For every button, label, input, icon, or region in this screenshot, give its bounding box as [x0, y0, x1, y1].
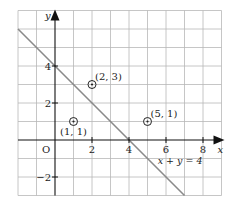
x-tick-label: 6: [163, 144, 169, 155]
y-tick-label: 2: [45, 98, 51, 109]
data-points: (1, 1)(2, 3)(5, 1): [60, 71, 177, 137]
point-dot-icon: [146, 120, 148, 122]
point-dot-icon: [72, 120, 74, 122]
x-tick-label: 4: [126, 144, 132, 155]
x-tick-label: 2: [89, 144, 95, 155]
line-equation-label: x + y = 4: [158, 155, 203, 166]
coordinate-plot: 2468−224 (1, 1)(2, 3)(5, 1) x y O x + y …: [0, 0, 238, 206]
origin-label: O: [42, 144, 50, 155]
x-tick-label: 8: [200, 144, 206, 155]
y-tick-label: 4: [45, 61, 51, 72]
data-point: (2, 3): [88, 71, 122, 89]
y-axis-arrow-icon: [51, 10, 60, 21]
y-axis-label: y: [44, 10, 51, 21]
x-axis-label: x: [218, 144, 224, 155]
point-dot-icon: [91, 83, 93, 85]
point-label: (5, 1): [151, 108, 178, 119]
data-point: (5, 1): [144, 108, 178, 126]
point-label: (1, 1): [60, 126, 87, 137]
y-tick-label: −2: [36, 172, 51, 183]
point-label: (2, 3): [95, 71, 122, 82]
